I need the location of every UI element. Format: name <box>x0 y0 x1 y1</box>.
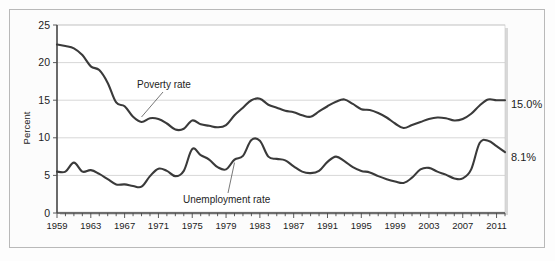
x-tick-label-1963: 1963 <box>80 220 101 231</box>
x-tick-label-1971: 1971 <box>148 220 169 231</box>
x-tick-label-1999: 1999 <box>385 220 406 231</box>
y-axis-tick-labels: 0510152025 <box>38 19 50 219</box>
x-tick-label-2011: 2011 <box>486 220 506 231</box>
poverty-rate-annotation-label: Poverty rate <box>137 79 191 90</box>
x-tick-label-1987: 1987 <box>283 220 304 231</box>
y-tick-label-20: 20 <box>38 56 50 68</box>
x-tick-label-1975: 1975 <box>182 220 203 231</box>
x-tick-label-2007: 2007 <box>452 220 473 231</box>
x-tick-label-1959: 1959 <box>46 220 67 231</box>
y-tick-label-0: 0 <box>44 207 50 219</box>
poverty-rate-end-value-label: 15.0% <box>511 98 542 110</box>
y-tick-label-15: 15 <box>38 94 50 106</box>
unemployment-rate-annotation-label: Unemployment rate <box>183 194 271 205</box>
y-tick-label-25: 25 <box>38 19 50 31</box>
x-tick-label-1967: 1967 <box>114 220 135 231</box>
unemployment-rate-end-value-label: 8.1% <box>511 151 536 163</box>
chart-canvas: 0510152025 19591963196719711975197919831… <box>0 0 555 261</box>
x-tick-label-1995: 1995 <box>351 220 372 231</box>
x-tick-label-1991: 1991 <box>317 220 338 231</box>
x-tick-label-1983: 1983 <box>249 220 270 231</box>
x-axis-tick-labels: 1959196319671971197519791983198719911995… <box>46 220 506 231</box>
x-tick-label-1979: 1979 <box>215 220 236 231</box>
y-axis-title: Percent <box>21 111 32 144</box>
x-tick-label-2003: 2003 <box>418 220 439 231</box>
figure-root: 0510152025 19591963196719711975197919831… <box>0 0 555 261</box>
y-tick-label-10: 10 <box>38 131 50 143</box>
chart-svg: 0510152025 19591963196719711975197919831… <box>0 0 555 261</box>
y-tick-label-5: 5 <box>44 169 50 181</box>
